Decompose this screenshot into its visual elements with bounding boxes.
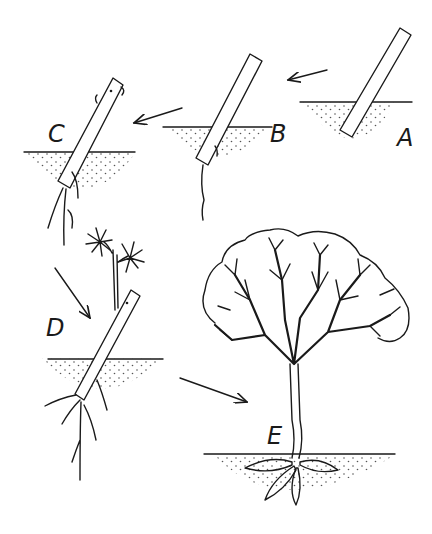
branches-e — [215, 250, 390, 364]
stage-c: C — [24, 78, 136, 245]
label-c: C — [48, 120, 65, 148]
label-b: B — [270, 120, 286, 148]
label-a: A — [395, 124, 413, 152]
bud-dot-d — [126, 302, 129, 305]
arrow-b-to-c — [134, 108, 182, 123]
bud-c-1 — [96, 95, 98, 103]
stage-d: D — [42, 228, 163, 480]
leaf-cluster-d-1 — [86, 228, 112, 256]
root-b — [202, 165, 204, 220]
label-d: D — [46, 314, 64, 342]
arrow-c-to-d — [55, 268, 90, 318]
trunk-e — [290, 364, 302, 458]
crown-outline-e — [203, 229, 409, 342]
roots-d — [45, 380, 107, 480]
stage-e: E — [203, 229, 409, 505]
shoot-d — [104, 242, 128, 310]
stage-b: B — [163, 54, 286, 220]
cutting-propagation-diagram: A B C D — [0, 0, 432, 534]
leaf-cluster-d-2 — [118, 242, 144, 272]
arrow-a-to-b — [288, 70, 327, 80]
bud-dot-c — [110, 90, 113, 93]
label-e: E — [267, 422, 283, 450]
stage-a: A — [300, 28, 413, 152]
arrow-d-to-e — [180, 378, 247, 402]
